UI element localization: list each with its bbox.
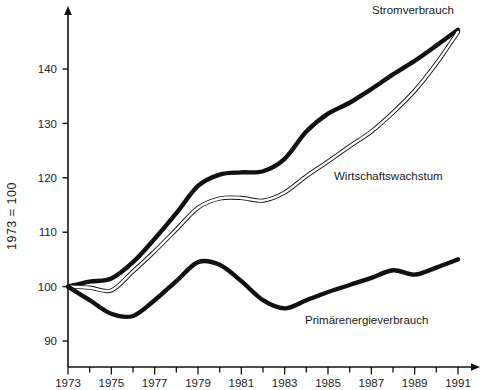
- series-label-primaerenergieverbrauch: Primärenergieverbrauch: [305, 314, 428, 326]
- y-tick-label: 140: [38, 63, 57, 75]
- x-tick-label: 1973: [55, 377, 81, 389]
- x-tick-label: 1975: [99, 377, 125, 389]
- y-tick-label: 110: [39, 226, 57, 238]
- x-tick-label: 1985: [315, 377, 341, 389]
- y-tick-label: 90: [44, 335, 57, 347]
- x-tick-label: 1987: [359, 377, 385, 389]
- line-chart: 90100110120130140 1973197519771979198119…: [0, 0, 485, 390]
- y-tick-label: 120: [38, 172, 57, 184]
- x-tick-label: 1983: [272, 377, 298, 389]
- chart-container: 90100110120130140 1973197519771979198119…: [0, 0, 485, 390]
- y-tick-label: 130: [38, 118, 57, 130]
- x-tick-label: 1991: [445, 377, 471, 389]
- series-label-stromverbrauch: Stromverbrauch: [372, 4, 454, 16]
- chart-background: [0, 0, 485, 390]
- x-tick-label: 1981: [229, 377, 255, 389]
- series-label-wirtschaftswachstum: Wirtschaftswachstum: [334, 170, 443, 182]
- y-tick-label: 100: [38, 281, 57, 293]
- y-axis-title: 1973 = 100: [5, 182, 19, 250]
- x-tick-label: 1979: [185, 377, 211, 389]
- x-tick-label: 1977: [142, 377, 168, 389]
- x-tick-label: 1989: [402, 377, 428, 389]
